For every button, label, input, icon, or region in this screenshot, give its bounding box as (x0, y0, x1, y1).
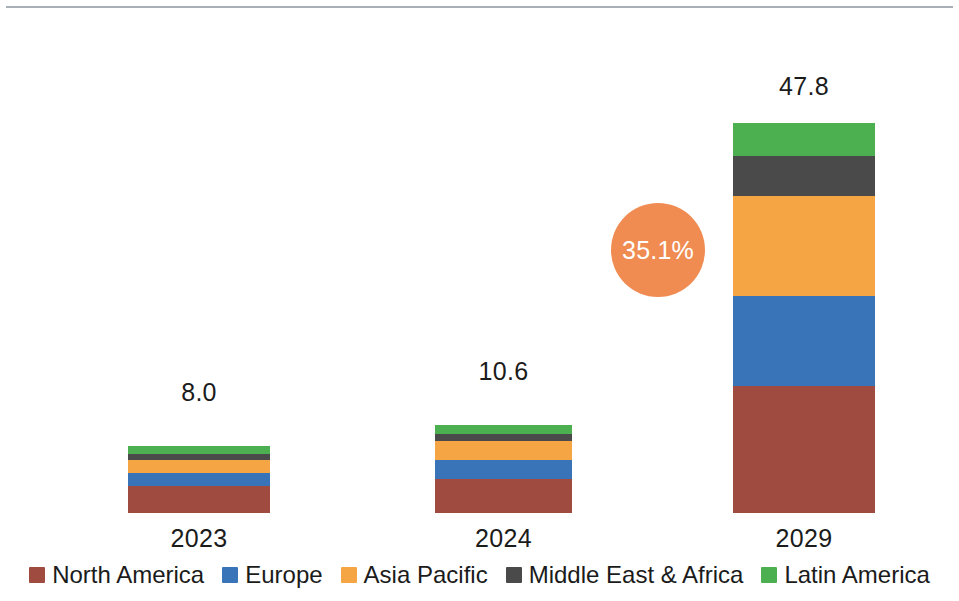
legend-swatch-icon (761, 567, 777, 583)
legend-label: Europe (245, 563, 322, 587)
legend-item[interactable]: Latin America (761, 563, 929, 587)
category-label-2029: 2029 (694, 524, 914, 553)
cagr-value: 35.1% (622, 236, 694, 265)
stacked-bar-2029 (733, 123, 875, 513)
bar-total-label: 8.0 (89, 378, 309, 407)
legend-label: Middle East & Africa (529, 563, 744, 587)
bar-segment (733, 156, 875, 196)
cagr-bubble: 35.1% (611, 203, 705, 297)
bar-segment (128, 446, 270, 454)
bar-total-label: 47.8 (694, 72, 914, 101)
bar-segment (733, 196, 875, 296)
bar-segment (128, 473, 270, 486)
legend-swatch-icon (222, 567, 238, 583)
legend-label: North America (52, 563, 204, 587)
legend-swatch-icon (341, 567, 357, 583)
stacked-bar-2024 (435, 425, 572, 513)
legend-item[interactable]: Middle East & Africa (506, 563, 744, 587)
bar-segment (733, 296, 875, 386)
bar-segment (733, 123, 875, 156)
bar-segment (435, 460, 572, 479)
category-label-2024: 2024 (394, 524, 614, 553)
legend-label: Latin America (784, 563, 929, 587)
stacked-bar-chart: 35.1% North AmericaEuropeAsia PacificMid… (0, 0, 959, 601)
bar-segment (128, 460, 270, 473)
stacked-bar-2023 (128, 446, 270, 513)
chart-legend: North AmericaEuropeAsia PacificMiddle Ea… (0, 563, 959, 587)
bar-segment (435, 434, 572, 441)
bar-segment (435, 441, 572, 460)
legend-item[interactable]: Europe (222, 563, 322, 587)
bar-segment (435, 479, 572, 513)
legend-label: Asia Pacific (364, 563, 488, 587)
bar-total-label: 10.6 (394, 357, 614, 386)
category-label-2023: 2023 (89, 524, 309, 553)
bar-segment (435, 425, 572, 434)
bar-segment (733, 386, 875, 513)
legend-item[interactable]: North America (29, 563, 204, 587)
legend-swatch-icon (29, 567, 45, 583)
legend-swatch-icon (506, 567, 522, 583)
bar-segment (128, 486, 270, 513)
legend-item[interactable]: Asia Pacific (341, 563, 488, 587)
